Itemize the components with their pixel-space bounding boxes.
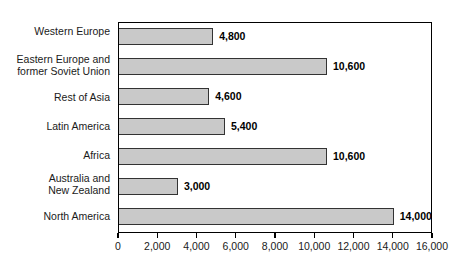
bar-value-label-eastern-europe-and-former-soviet-union: 10,600 (333, 58, 365, 75)
x-tick-label-16000: 16,000 (416, 240, 448, 252)
bar-value-label-western-europe: 4,800 (219, 28, 245, 45)
x-tick-4000 (196, 233, 197, 238)
x-tick-label-4000: 4,000 (183, 240, 209, 252)
bars-container: 4,80010,6004,6005,40010,6003,00014,000 (119, 23, 431, 232)
x-tick-label-0: 0 (115, 240, 121, 252)
bar-value-label-rest-of-asia: 4,600 (215, 88, 241, 105)
plot-area: 4,80010,6004,6005,40010,6003,00014,000 (118, 22, 432, 233)
category-label-africa: Africa (83, 150, 110, 162)
x-tick-2000 (157, 233, 158, 238)
x-tick-10000 (314, 233, 315, 238)
x-tick-16000 (431, 233, 432, 238)
bar-western-europe (119, 28, 213, 45)
category-label-eastern-europe-former-soviet-union: Eastern Europe and former Soviet Union (17, 54, 110, 77)
bar-latin-america (119, 118, 225, 135)
bar-north-america (119, 208, 394, 225)
category-label-rest-of-asia: Rest of Asia (54, 92, 110, 104)
bar-value-label-latin-america: 5,400 (231, 118, 257, 135)
x-tick-label-14000: 14,000 (377, 240, 409, 252)
x-tick-label-10000: 10,000 (298, 240, 330, 252)
bar-chart: Western Europe Eastern Europe and former… (0, 0, 461, 268)
bar-value-label-australia-and-new-zealand: 3,000 (184, 178, 210, 195)
x-axis-ticks (118, 233, 432, 239)
x-tick-label-2000: 2,000 (144, 240, 170, 252)
bar-africa (119, 148, 327, 165)
bar-eastern-europe-and-former-soviet-union (119, 58, 327, 75)
x-tick-6000 (235, 233, 236, 238)
bar-value-label-africa: 10,600 (333, 148, 365, 165)
x-tick-label-6000: 6,000 (223, 240, 249, 252)
bar-value-label-north-america: 14,000 (400, 208, 432, 225)
x-tick-14000 (392, 233, 393, 238)
x-tick-12000 (353, 233, 354, 238)
category-axis-labels: Western Europe Eastern Europe and former… (0, 22, 114, 233)
category-label-latin-america: Latin America (46, 121, 110, 133)
x-tick-label-8000: 8,000 (262, 240, 288, 252)
x-tick-label-12000: 12,000 (337, 240, 369, 252)
category-label-western-europe: Western Europe (34, 26, 110, 38)
x-tick-0 (117, 233, 118, 238)
bar-rest-of-asia (119, 88, 209, 105)
x-tick-8000 (274, 233, 275, 238)
category-label-australia-and-new-zealand: Australia and New Zealand (48, 173, 110, 196)
bar-australia-and-new-zealand (119, 178, 178, 195)
category-label-north-america: North America (43, 211, 110, 223)
x-axis-tick-labels: 02,0004,0006,0008,00010,00012,00014,0001… (0, 240, 461, 256)
